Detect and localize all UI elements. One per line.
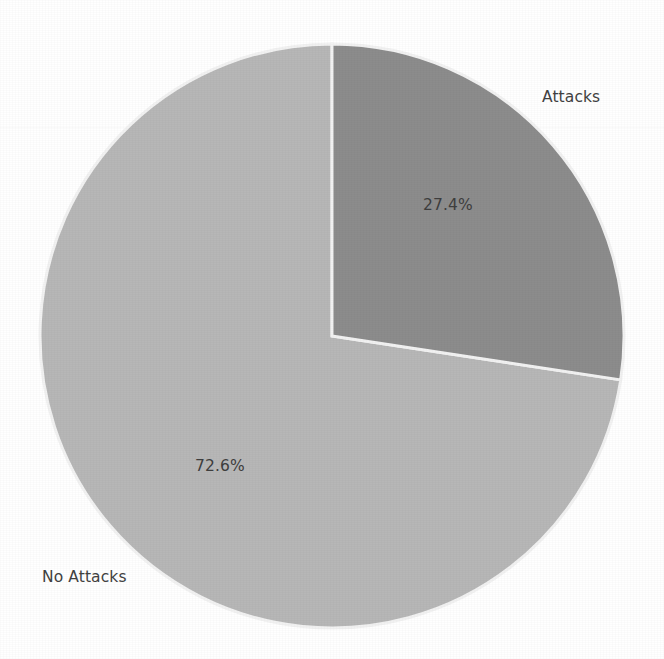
pie-value-no-attacks: 72.6% (195, 457, 245, 475)
pie-label-no-attacks: No Attacks (42, 568, 127, 586)
pie-chart-figure: Attacks No Attacks 27.4% 72.6% (0, 0, 664, 659)
pie-label-attacks: Attacks (542, 88, 600, 106)
pie-value-attacks: 27.4% (423, 196, 473, 214)
